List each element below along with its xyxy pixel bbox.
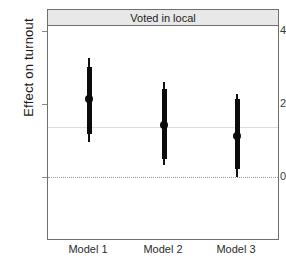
- y-axis-title: Effect on turnout: [21, 0, 36, 158]
- estimate-point-model-3: [233, 132, 241, 140]
- x-tick-label-model-1: Model 1: [48, 243, 128, 255]
- coefficient-plot-figure: Effect on turnout 0.4 0.2 0.0 Voted in l…: [0, 0, 286, 262]
- panel-strip-header: Voted in local: [47, 9, 279, 26]
- x-tick-label-model-2: Model 2: [123, 243, 203, 255]
- estimate-point-model-1: [85, 95, 93, 103]
- plot-panel: [47, 26, 279, 240]
- x-tick-label-model-3: Model 3: [196, 243, 276, 255]
- gridline-dotted-zero: [48, 177, 278, 178]
- panel-strip-label: Voted in local: [130, 12, 195, 24]
- estimate-point-model-2: [160, 121, 168, 129]
